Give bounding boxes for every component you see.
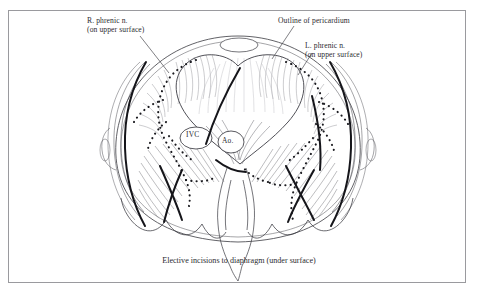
elective-incision-right-lower <box>160 166 182 220</box>
label-ivc: IVC <box>186 130 199 139</box>
label-pericardium-text: Outline of pericardium <box>278 16 350 25</box>
label-left-phrenic-line1: L. phrenic n. <box>305 41 362 50</box>
elective-incision-central <box>216 160 246 172</box>
label-aorta: Ao. <box>222 136 233 145</box>
left-phrenic-nerve <box>242 62 348 220</box>
pericardium-leader <box>272 26 294 59</box>
label-right-phrenic-line2: (on upper surface) <box>87 25 144 34</box>
label-left-phrenic-nerve: L. phrenic n. (on upper surface) <box>305 41 362 60</box>
elective-incision-left-radial <box>312 96 321 170</box>
label-right-phrenic-nerve: R. phrenic n. (on upper surface) <box>87 16 144 35</box>
label-pericardium-outline: Outline of pericardium <box>278 16 350 25</box>
costal-scallops <box>121 198 353 238</box>
r-phrenic-leader <box>140 36 169 73</box>
label-left-phrenic-line2: (on upper surface) <box>305 50 362 59</box>
figure-caption-elective-incisions: Elective incisions to diaphragm (under s… <box>0 256 478 265</box>
figure-page: R. phrenic n. (on upper surface) Outline… <box>0 0 478 295</box>
diaphragm-illustration <box>0 0 478 295</box>
label-right-phrenic-line1: R. phrenic n. <box>87 16 144 25</box>
elective-incision-left-lower <box>286 166 314 220</box>
esophageal-hiatus-oval <box>220 38 258 52</box>
